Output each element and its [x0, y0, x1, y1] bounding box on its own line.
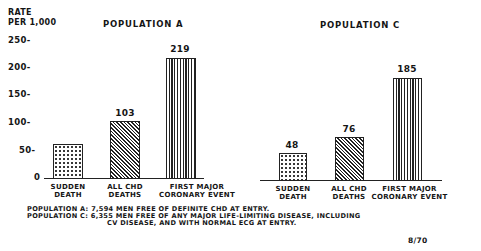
y-axis-label-line1: RATE: [8, 8, 56, 18]
panel-c-bar-sudden-death: [279, 153, 307, 181]
panel-a-bar-major-event: [166, 58, 196, 179]
y-axis-label-line2: PER 1,000: [8, 18, 56, 28]
panel-c-title: POPULATION C: [320, 20, 400, 30]
footnote-population-c-line2: CV DISEASE, AND WITH NORMAL ECG AT ENTRY…: [107, 220, 297, 228]
y-tick-100: 100-: [8, 117, 48, 127]
y-axis-label: RATE PER 1,000: [8, 8, 56, 28]
panel-a-title: POPULATION A: [103, 19, 183, 29]
y-tick-250: 250-: [8, 35, 48, 45]
panel-a-bar-chd-deaths: [110, 121, 140, 179]
panel-a-value-major: 219: [160, 44, 200, 54]
panel-a-value-chd: 103: [105, 108, 145, 118]
panel-a-bar-sudden-death: [53, 144, 83, 179]
y-tick-150: 150-: [8, 89, 48, 99]
panel-c-bar-major-event: [393, 78, 422, 181]
cat-line1: FIRST MAJOR: [152, 183, 242, 191]
y-tick-200: 200-: [8, 62, 48, 72]
panel-a-cat-major: FIRST MAJOR CORONARY EVENT: [152, 183, 242, 199]
cat-line1: FIRST MAJOR: [362, 185, 457, 193]
panel-c-value-chd: 76: [329, 124, 369, 134]
panel-c-value-major: 185: [387, 64, 427, 74]
panel-c-bar-chd-deaths: [335, 137, 364, 181]
cat-line2: CORONARY EVENT: [362, 193, 457, 201]
date-tag: 8/70: [408, 236, 428, 245]
cat-line2: CORONARY EVENT: [152, 191, 242, 199]
panel-c-value-sudden: 48: [272, 140, 312, 150]
panel-c-cat-major: FIRST MAJOR CORONARY EVENT: [362, 185, 457, 201]
